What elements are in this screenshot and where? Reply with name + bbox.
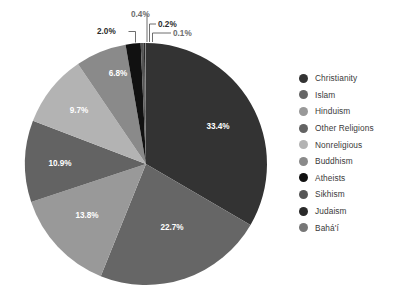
legend-item-label: Hinduism (315, 106, 350, 116)
legend-item[interactable]: Islam (299, 87, 396, 104)
slice-label-hinduism: 13.8% (75, 211, 99, 220)
legend-item[interactable]: Buddhism (299, 153, 396, 170)
legend-swatch-icon (299, 223, 308, 232)
legend-item-label: Other Religions (315, 123, 374, 133)
legend-swatch-icon (299, 173, 308, 182)
legend-swatch-icon (299, 74, 308, 83)
legend-item[interactable]: Hinduism (299, 103, 396, 120)
legend-item-label: Atheists (315, 173, 345, 183)
chart-canvas: 33.4% 22.7% 13.8% 10.9% 9.7% 6.8% 2.0% 0… (0, 0, 396, 297)
chart-legend: ChristianityIslamHinduismOther Religions… (299, 70, 396, 236)
callout-label-judaism: 0.2% (158, 20, 177, 29)
legend-swatch-icon (299, 207, 308, 216)
callout-label-sikhism: 0.4% (131, 10, 150, 19)
legend-item[interactable]: Judaism (299, 203, 396, 220)
legend-item[interactable]: Christianity (299, 70, 396, 87)
slice-label-nonreligious: 9.7% (70, 106, 89, 115)
legend-item[interactable]: Bahá'í (299, 219, 396, 236)
slice-label-buddhism: 6.8% (109, 69, 128, 78)
legend-item-label: Buddhism (315, 156, 353, 166)
legend-item-label: Bahá'í (315, 223, 339, 233)
leader-line-atheists (129, 32, 136, 43)
legend-item[interactable]: Other Religions (299, 120, 396, 137)
leader-line-bahai (153, 33, 172, 42)
legend-item-label: Judaism (315, 206, 347, 216)
legend-item[interactable]: Atheists (299, 170, 396, 187)
slice-label-other-religions: 10.9% (48, 159, 72, 168)
callout-label-atheists: 2.0% (97, 27, 116, 36)
legend-item[interactable]: Sikhism (299, 186, 396, 203)
legend-item-label: Sikhism (315, 189, 345, 199)
callout-label-bahai: 0.1% (173, 29, 192, 38)
legend-swatch-icon (299, 157, 308, 166)
legend-swatch-icon (299, 124, 308, 133)
legend-item[interactable]: Nonreligious (299, 136, 396, 153)
legend-item-label: Islam (315, 90, 335, 100)
slice-label-islam: 22.7% (160, 223, 184, 232)
legend-item-label: Nonreligious (315, 140, 362, 150)
legend-swatch-icon (299, 90, 308, 99)
slice-label-christianity: 33.4% (206, 122, 230, 131)
legend-item-label: Christianity (315, 73, 357, 83)
legend-swatch-icon (299, 140, 308, 149)
legend-swatch-icon (299, 107, 308, 116)
legend-swatch-icon (299, 190, 308, 199)
